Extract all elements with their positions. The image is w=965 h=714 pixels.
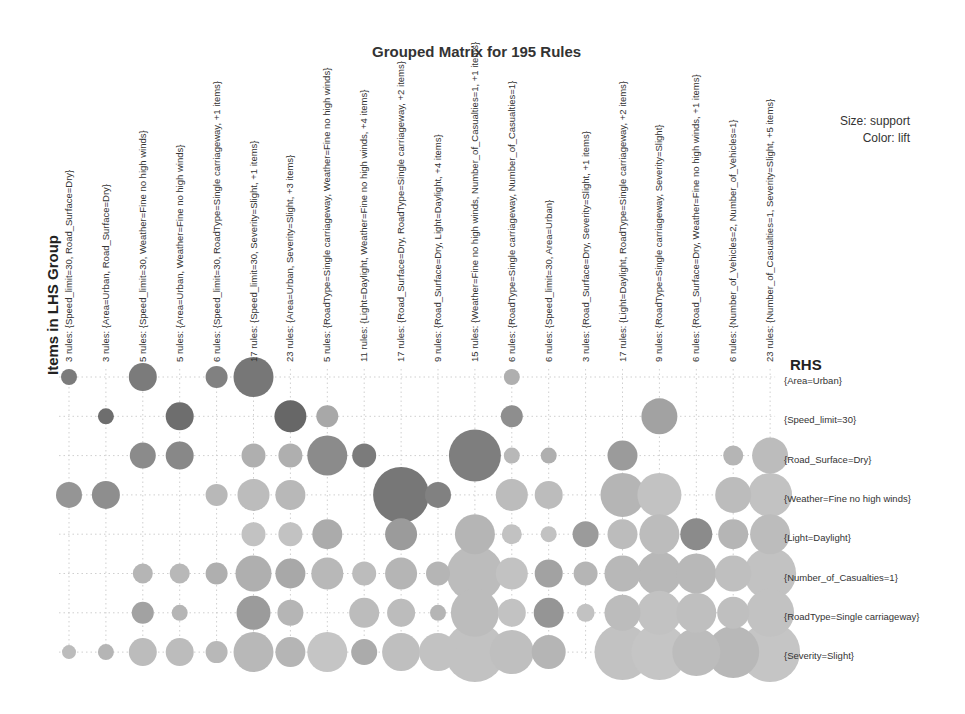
rhs-item-label: {Area=Urban} bbox=[784, 375, 842, 386]
rule-bubble bbox=[672, 628, 720, 676]
rule-bubble bbox=[490, 630, 534, 674]
rule-bubble bbox=[717, 597, 749, 629]
rule-bubble bbox=[170, 564, 190, 584]
rule-bubble bbox=[238, 479, 270, 511]
rule-bubble bbox=[504, 369, 520, 385]
lhs-group-label: 23 rules: {Area=Urban, Severity=Slight, … bbox=[284, 155, 295, 362]
rule-bubble bbox=[98, 408, 114, 424]
rule-bubble bbox=[574, 562, 598, 586]
rule-bubble bbox=[451, 589, 499, 637]
rule-bubble bbox=[352, 444, 376, 468]
rule-bubble bbox=[502, 524, 522, 544]
rule-bubble bbox=[307, 632, 347, 672]
lhs-group-label: 17 rules: {Speed_limit=30, Severity=Slig… bbox=[248, 140, 259, 362]
lhs-group-label: 3 rules: {Area=Urban, Road_Surface=Dry} bbox=[100, 184, 111, 362]
rule-bubble bbox=[172, 605, 188, 621]
lhs-group-label: 5 rules: {RoadType=Single carriageway, W… bbox=[321, 68, 332, 362]
rule-bubble bbox=[166, 402, 194, 430]
lhs-group-label: 6 rules: {RoadType=Single carriageway, N… bbox=[506, 81, 517, 362]
rule-bubble bbox=[639, 514, 679, 554]
rule-bubble bbox=[449, 430, 501, 482]
lhs-group-label: 9 rules: {RoadType=Single carriageway, S… bbox=[653, 125, 664, 362]
rule-bubble bbox=[637, 591, 681, 635]
rule-bubble bbox=[56, 482, 82, 508]
rule-bubble bbox=[242, 522, 266, 546]
rule-bubble bbox=[275, 559, 305, 589]
rhs-item-label: {Severity=Slight} bbox=[784, 650, 854, 661]
rhs-item-label: {RoadType=Single carriageway} bbox=[784, 611, 919, 622]
lhs-group-label: 6 rules: {Number_of_Vehicles=2, Number_o… bbox=[727, 120, 738, 362]
rule-bubble bbox=[637, 552, 681, 596]
rhs-item-label: {Speed_limit=30} bbox=[784, 414, 856, 425]
rule-bubble bbox=[425, 482, 451, 508]
rule-bubble bbox=[307, 436, 347, 476]
rhs-item-label: {Weather=Fine no high winds} bbox=[784, 493, 911, 504]
rule-bubble bbox=[496, 558, 528, 590]
rule-bubble bbox=[680, 518, 712, 550]
lhs-group-label: 6 rules: {Road_Surface=Dry, Weather=Fine… bbox=[690, 74, 701, 362]
rule-bubble bbox=[641, 398, 677, 434]
rule-bubble bbox=[426, 562, 450, 586]
lhs-group-label: 3 rules: {Speed_limit=30, Road_Surface=D… bbox=[63, 170, 74, 362]
rule-bubble bbox=[535, 481, 563, 509]
rule-bubble bbox=[637, 473, 681, 517]
rule-bubble bbox=[237, 596, 271, 630]
rule-bubble bbox=[242, 444, 266, 468]
rule-bubble bbox=[387, 599, 415, 627]
rule-bubble bbox=[541, 448, 557, 464]
lhs-group-label: 11 rules: {Light=Daylight, Weather=Fine … bbox=[358, 90, 369, 362]
rule-bubble bbox=[718, 519, 748, 549]
rule-bubble bbox=[498, 599, 526, 627]
rule-bubble bbox=[278, 522, 302, 546]
rule-bubble bbox=[352, 562, 376, 586]
rule-bubble bbox=[133, 564, 153, 584]
rule-bubble bbox=[676, 593, 716, 633]
rhs-item-label: {Light=Daylight} bbox=[784, 532, 851, 543]
rule-bubble bbox=[316, 405, 338, 427]
rule-bubble bbox=[608, 519, 638, 549]
rule-bubble bbox=[206, 563, 228, 585]
rule-bubble bbox=[541, 526, 557, 542]
rule-bubble bbox=[311, 558, 343, 590]
lhs-group-label: 17 rules: {Light=Daylight, RoadType=Sing… bbox=[617, 81, 628, 362]
rule-bubble bbox=[274, 400, 306, 432]
rule-bubble bbox=[752, 438, 788, 474]
rule-bubble bbox=[92, 481, 120, 509]
rule-bubble bbox=[351, 639, 377, 665]
rule-bubble bbox=[573, 521, 599, 547]
lhs-group-label: 17 rules: {Road_Surface=Dry, RoadType=Si… bbox=[395, 61, 406, 362]
rule-bubble bbox=[130, 443, 156, 469]
rule-bubble bbox=[234, 632, 274, 672]
bubbles bbox=[56, 357, 800, 682]
rule-bubble bbox=[166, 638, 194, 666]
rule-bubble bbox=[605, 556, 641, 592]
rule-bubble bbox=[129, 638, 157, 666]
rule-bubble bbox=[715, 556, 751, 592]
lhs-group-label: 15 rules: {Weather=Fine no high winds, N… bbox=[469, 42, 480, 362]
rule-bubble bbox=[504, 448, 520, 464]
rule-bubble bbox=[419, 633, 457, 671]
rule-bubble bbox=[723, 446, 743, 466]
lhs-group-label: 9 rules: {Road_Surface=Dry, Light=Daylig… bbox=[432, 134, 443, 362]
rule-bubble bbox=[373, 467, 429, 523]
lhs-group-label: 5 rules: {Area=Urban, Weather=Fine no hi… bbox=[174, 145, 185, 362]
rule-bubble bbox=[277, 600, 303, 626]
rule-bubble bbox=[62, 645, 76, 659]
rule-bubble bbox=[577, 604, 595, 622]
rule-bubble bbox=[430, 605, 446, 621]
rule-bubble bbox=[98, 644, 114, 660]
rule-bubble bbox=[312, 519, 342, 549]
rule-bubble bbox=[382, 633, 420, 671]
rule-bubble bbox=[501, 405, 523, 427]
lhs-group-label: 6 rules: {Speed_limit=30, Area=Urban} bbox=[543, 200, 554, 362]
rhs-item-label: {Number_of_Casualties=1} bbox=[784, 572, 898, 583]
rule-bubble bbox=[206, 366, 228, 388]
lhs-group-label: 5 rules: {Speed_limit=30, Weather=Fine n… bbox=[137, 130, 148, 362]
rule-bubble bbox=[166, 442, 194, 470]
rule-bubble bbox=[275, 637, 305, 667]
rule-bubble bbox=[61, 369, 77, 385]
rule-bubble bbox=[385, 518, 417, 550]
rule-bubble bbox=[676, 554, 716, 594]
rule-bubble bbox=[236, 556, 272, 592]
rule-bubble bbox=[129, 363, 157, 391]
